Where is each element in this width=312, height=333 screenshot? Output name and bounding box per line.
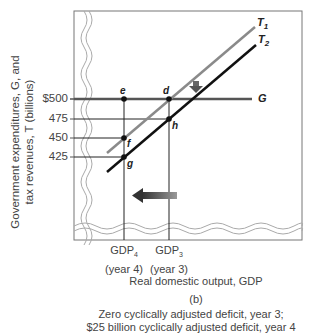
x-axis-label: Real domestic output, GDP (40, 275, 312, 287)
x-axis-break-icon (74, 223, 303, 234)
t2-label: T2 (258, 33, 269, 48)
t1-label: T1 (257, 16, 268, 31)
point-f (121, 135, 127, 141)
caption-line-1: Zero cyclically adjusted deficit, year 3… (35, 308, 312, 320)
y-tick-450: 450 (28, 131, 68, 143)
label-d: d (163, 85, 169, 96)
label-e: e (120, 85, 126, 96)
label-h: h (172, 120, 178, 131)
point-h (166, 116, 172, 122)
y-tick-425: 425 (28, 150, 68, 162)
shift-left-arrow-icon (132, 188, 177, 203)
x-tick-gdp3: GDP3 (year 3) (139, 243, 199, 276)
y-tick-500: $500 (28, 92, 68, 104)
y-axis-break-icon (81, 11, 92, 245)
point-e (121, 96, 127, 102)
label-f: f (127, 138, 130, 149)
label-g: g (127, 158, 133, 169)
caption-line-2: $25 billion cyclically adjusted deficit,… (35, 321, 312, 333)
t1-line (107, 27, 255, 153)
y-tick-475: 475 (28, 112, 68, 124)
panel-label: (b) (40, 293, 312, 305)
g-label: G (258, 92, 267, 104)
t2-line (107, 45, 256, 172)
point-d (166, 96, 172, 102)
point-g (121, 154, 127, 160)
